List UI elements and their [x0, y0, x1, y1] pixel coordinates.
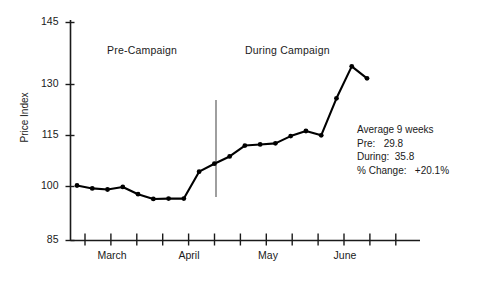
data-point [242, 143, 247, 148]
data-point [334, 96, 339, 101]
data-point [273, 141, 278, 146]
y-tick-label-100: 100 [29, 179, 59, 191]
stats-pre-key: Pre: [357, 137, 375, 151]
stats-change-key: % Change: [357, 164, 406, 178]
data-point [212, 161, 217, 166]
stats-during-key: During: [357, 150, 389, 164]
price-index-chart: Price Index 14513011510085 MarchAprilMay… [0, 0, 480, 282]
x-tick-marks [85, 234, 396, 246]
data-point [227, 154, 232, 159]
x-tick-label-june: June [315, 249, 375, 261]
y-tick-label-145: 145 [29, 15, 59, 27]
stats-during-row: During: 35.8 [357, 150, 449, 164]
x-tick-label-march: March [82, 249, 142, 261]
data-point [365, 76, 370, 81]
price-index-line [77, 66, 367, 199]
stats-change-value: +20.1% [415, 164, 449, 178]
data-point [166, 196, 171, 201]
data-point [105, 187, 110, 192]
data-point [151, 197, 156, 202]
data-point [288, 134, 293, 139]
stats-pre-row: Pre: 29.8 [357, 137, 449, 151]
during-campaign-label: During Campaign [245, 44, 330, 56]
y-axis-title: Price Index [19, 80, 30, 156]
data-point [136, 192, 141, 197]
y-tick-label-115: 115 [29, 128, 59, 140]
summary-stats-box: Average 9 weeks Pre: 29.8 During: 35.8 %… [357, 123, 449, 177]
price-index-markers [75, 64, 370, 201]
data-point [304, 129, 309, 134]
data-point [319, 133, 324, 138]
data-point [197, 169, 202, 174]
stats-during-value: 35.8 [395, 150, 414, 164]
data-point [258, 142, 263, 147]
pre-campaign-label: Pre-Campaign [107, 44, 177, 56]
data-point [90, 186, 95, 191]
y-tick-label-130: 130 [29, 77, 59, 89]
x-tick-label-april: April [159, 249, 219, 261]
stats-change-row: % Change: +20.1% [357, 164, 449, 178]
stats-title: Average 9 weeks [357, 123, 449, 137]
stats-pre-value: 29.8 [384, 137, 403, 151]
y-tick-label-85: 85 [29, 233, 59, 245]
data-point [349, 64, 354, 69]
x-tick-label-may: May [238, 249, 298, 261]
data-point [181, 196, 186, 201]
data-point [120, 185, 125, 190]
data-point [75, 183, 80, 188]
